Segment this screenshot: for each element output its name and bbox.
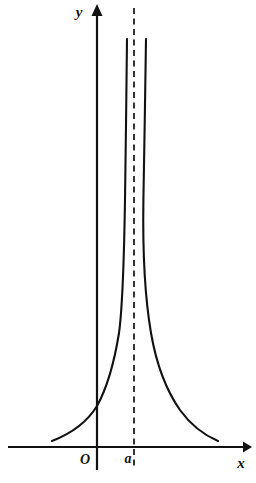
x-axis-arrow-icon (243, 442, 252, 453)
asymptote-tick-label: a (125, 451, 132, 466)
graph-canvas: y x O a (0, 0, 256, 483)
curve-right-branch (143, 39, 218, 441)
y-axis-label: y (74, 4, 83, 20)
y-axis-arrow-icon (92, 4, 103, 16)
function-graph-figure: y x O a (0, 0, 256, 483)
origin-label: O (80, 452, 90, 467)
x-axis-label: x (236, 455, 245, 471)
curve-left-branch (52, 39, 127, 441)
